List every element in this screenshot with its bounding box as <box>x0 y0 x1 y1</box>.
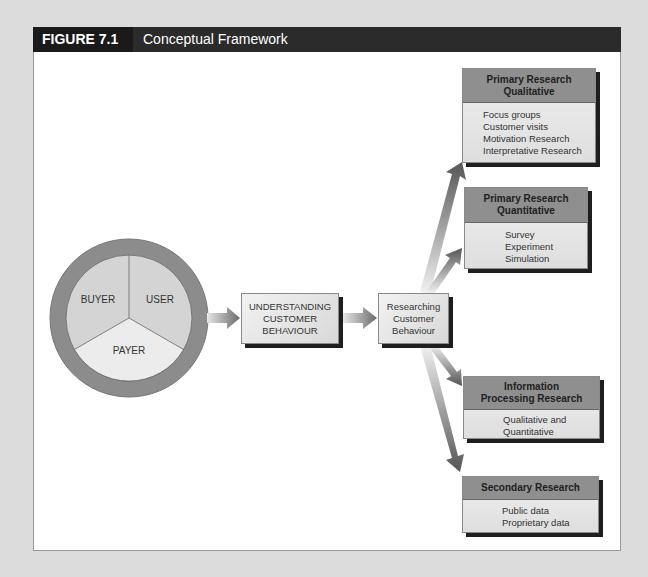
list-item: Qualitative and <box>503 414 566 426</box>
researching-line-1: Researching <box>387 301 440 313</box>
segment-payer: PAYER <box>113 345 145 356</box>
information-processing-box: Information Processing Research Qualitat… <box>463 376 600 439</box>
box-header: Primary Research Qualitative <box>463 69 595 103</box>
segment-user: USER <box>146 294 174 305</box>
box-title-line: Qualitative <box>463 86 595 98</box>
list-item: Survey <box>505 229 535 241</box>
box-items: Public data Proprietary data <box>463 500 598 533</box>
box-items: Qualitative and Quantitative <box>464 410 599 442</box>
list-item: Simulation <box>505 253 549 265</box>
understanding-box: UNDERSTANDING CUSTOMER BEHAVIOUR <box>241 293 339 344</box>
understanding-line-3: BEHAVIOUR <box>262 325 317 337</box>
arrow-to-researching <box>343 307 377 329</box>
box-title-line: Information <box>464 381 599 393</box>
list-item: Experiment <box>505 241 553 253</box>
list-item: Public data <box>502 505 549 517</box>
researching-line-3: Behaviour <box>392 325 435 337</box>
box-header: Information Processing Research <box>464 377 599 410</box>
box-items: Survey Experiment Simulation <box>465 223 587 269</box>
box-header: Primary Research Quantitative <box>465 188 587 223</box>
box-header: Secondary Research <box>463 477 598 500</box>
list-item: Interpretative Research <box>483 145 582 157</box>
secondary-research-box: Secondary Research Public data Proprieta… <box>462 476 599 533</box>
researching-box: Researching Customer Behaviour <box>378 293 449 344</box>
researching-line-2: Customer <box>393 313 434 325</box>
list-item: Motivation Research <box>483 133 570 145</box>
arrow-to-understanding <box>207 307 240 329</box>
understanding-line-1: UNDERSTANDING <box>249 301 331 313</box>
box-items: Focus groups Customer visits Motivation … <box>463 103 595 161</box>
primary-qualitative-box: Primary Research Qualitative Focus group… <box>462 68 596 163</box>
box-title-line: Primary Research <box>463 74 595 86</box>
box-title-line: Processing Research <box>464 393 599 405</box>
box-title-line: Primary Research <box>465 193 587 205</box>
list-item: Proprietary data <box>502 517 570 529</box>
segment-buyer: BUYER <box>81 294 115 305</box>
box-title-line: Secondary Research <box>463 482 598 494</box>
box-title-line: Quantitative <box>465 205 587 217</box>
list-item: Customer visits <box>483 121 548 133</box>
primary-quantitative-box: Primary Research Quantitative Survey Exp… <box>464 187 588 269</box>
understanding-line-2: CUSTOMER <box>263 313 317 325</box>
stakeholder-circle <box>50 239 208 397</box>
list-item: Quantitative <box>503 426 554 438</box>
list-item: Focus groups <box>483 109 541 121</box>
